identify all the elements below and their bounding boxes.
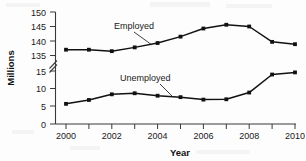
data-point <box>293 71 297 75</box>
data-point <box>224 97 228 101</box>
data-point <box>247 91 251 95</box>
employed-leader-line <box>134 32 152 45</box>
data-point <box>110 92 114 96</box>
employed-label: Employed <box>114 21 154 31</box>
y-tick-label-140: 140 <box>31 37 46 47</box>
y-tick-label-145: 145 <box>31 22 46 32</box>
data-point <box>270 73 274 77</box>
data-point <box>202 27 206 31</box>
data-point <box>156 41 160 45</box>
data-point <box>64 102 68 106</box>
x-tick-label-2006: 2006 <box>193 131 213 141</box>
data-point <box>179 35 183 39</box>
series-unemployed <box>64 71 297 106</box>
data-point <box>133 45 137 49</box>
employment-line-chart: 150 145 140 135 15 10 5 0 Millions <box>0 0 305 161</box>
y-axis-title: Millions <box>5 50 16 85</box>
x-tick-label-2000: 2000 <box>56 131 76 141</box>
data-point <box>64 48 68 52</box>
y-tick-label-5: 5 <box>41 102 46 112</box>
unemployed-label: Unemployed <box>120 73 171 83</box>
y-tick-label-0: 0 <box>41 120 46 130</box>
unemployed-leader-line <box>160 84 173 97</box>
data-point <box>247 25 251 29</box>
data-point <box>156 94 160 98</box>
data-point <box>202 98 206 102</box>
y-tick-label-15: 15 <box>36 67 46 77</box>
data-point <box>87 98 91 102</box>
annotation-employed: Employed <box>114 21 154 45</box>
y-tick-label-10: 10 <box>36 84 46 94</box>
data-point <box>110 49 114 53</box>
y-tick-label-135: 135 <box>31 51 46 61</box>
data-point <box>133 91 137 95</box>
series-employed <box>64 23 297 53</box>
unemployed-line <box>66 72 295 103</box>
data-point <box>87 48 91 52</box>
data-point <box>293 42 297 46</box>
employed-markers <box>64 23 297 53</box>
unemployed-markers <box>64 71 297 106</box>
x-axis-group: 2000 2002 2004 2006 2008 2010 Year <box>56 124 306 158</box>
x-tick-label-2010: 2010 <box>285 131 305 141</box>
y-tick-label-150: 150 <box>31 8 46 18</box>
x-axis-title: Year <box>170 147 190 158</box>
data-point <box>270 40 274 44</box>
chart-canvas: 150 145 140 135 15 10 5 0 Millions <box>0 0 305 161</box>
x-tick-label-2002: 2002 <box>102 131 122 141</box>
data-point <box>224 23 228 27</box>
x-tick-label-2008: 2008 <box>239 131 259 141</box>
x-tick-label-2004: 2004 <box>148 131 168 141</box>
data-point <box>179 95 183 99</box>
y-axis-group: 150 145 140 135 15 10 5 0 Millions <box>5 8 57 130</box>
